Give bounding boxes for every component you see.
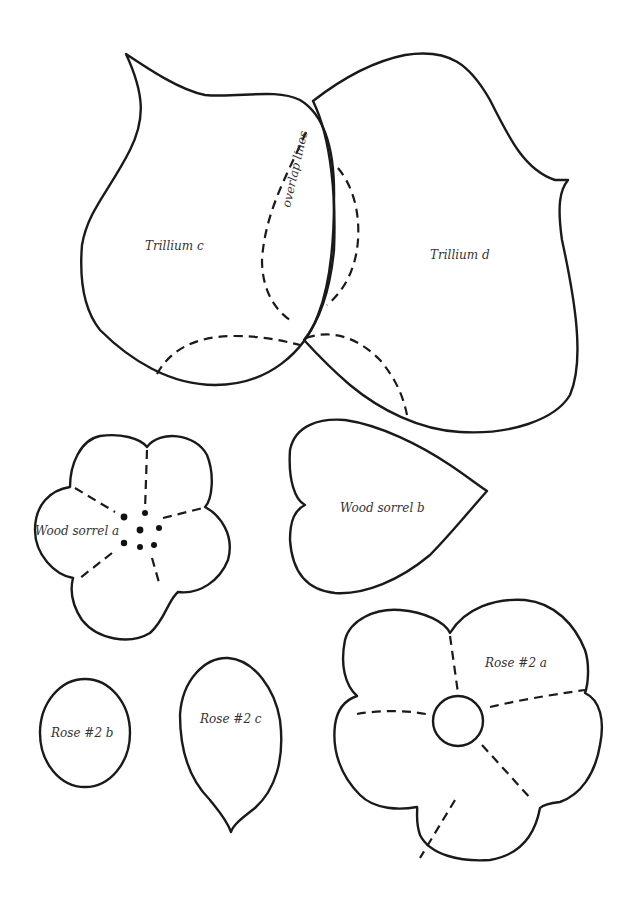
rose-2-a-outline: [334, 600, 601, 861]
stamen-dot-icon: [137, 527, 144, 534]
wood-sorrel-b-piece: Wood sorrel b: [290, 420, 487, 593]
wood-sorrel-a-label: Wood sorrel a: [35, 524, 119, 538]
wood-sorrel-a-piece: Wood sorrel a: [35, 435, 230, 639]
wood-sorrel-a-petal-line-3: [163, 508, 203, 518]
stamen-dot-icon: [151, 542, 157, 548]
trillium-c-outline: [81, 54, 334, 385]
trillium-c-base-dashed: [157, 336, 300, 374]
trillium-d-outline: [304, 53, 578, 432]
wood-sorrel-a-petal-line-5: [152, 558, 160, 586]
rose-2-c-piece: Rose #2 c: [180, 658, 281, 832]
rose-2-a-label: Rose #2 a: [484, 656, 547, 670]
trillium-c-label: Trillium c: [145, 239, 204, 253]
rose-2-a-petal-line-2: [490, 690, 585, 707]
stamen-dot-icon: [121, 514, 128, 521]
rose-2-a-petal-line-1: [450, 636, 458, 693]
wood-sorrel-b-label: Wood sorrel b: [340, 501, 425, 515]
rose-2-b-label: Rose #2 b: [50, 726, 114, 740]
trillium-d-overlap-dashed: [327, 168, 358, 305]
wood-sorrel-a-petal-line-4: [80, 553, 112, 578]
rose-2-c-label: Rose #2 c: [199, 712, 262, 726]
rose-2-a-petal-line-4: [420, 800, 455, 858]
template-sheet: Trillium c Trillium d overlap lines Wood…: [0, 0, 635, 898]
trillium-d-label: Trillium d: [430, 248, 490, 262]
rose-2-a-piece: Rose #2 a: [334, 600, 601, 861]
wood-sorrel-a-petal-line-1: [145, 450, 147, 510]
rose-2-b-piece: Rose #2 b: [40, 679, 130, 787]
stamen-dot-icon: [137, 544, 143, 550]
rose-2-a-petal-line-5: [482, 745, 532, 800]
rose-2-c-outline: [180, 658, 281, 832]
rose-2-a-petal-line-3: [357, 711, 430, 715]
trillium-d-piece: Trillium d: [304, 53, 578, 432]
wood-sorrel-a-petal-line-2: [75, 488, 115, 512]
overlap-lines-label: overlap lines: [279, 130, 310, 209]
stamen-dot-icon: [121, 540, 127, 546]
stamen-dot-icon: [142, 510, 148, 516]
trillium-d-base-dashed: [306, 334, 407, 415]
rose-2-a-center-circle: [433, 696, 483, 746]
trillium-c-piece: Trillium c: [81, 54, 334, 385]
stamen-dot-icon: [156, 525, 162, 531]
